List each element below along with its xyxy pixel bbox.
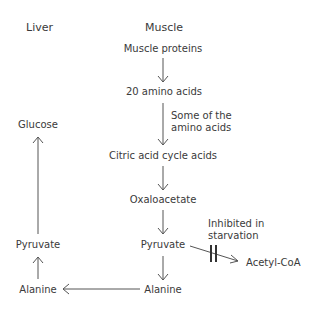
arrow-citric-to-oxaloacetate [158,166,168,190]
label-inhibited-line1: Inhibited in [208,218,264,230]
muscle-header: Muscle [145,21,183,34]
node-liver-pyruvate: Pyruvate [16,239,61,251]
label-some-amino-acids-line1: Some of the [171,110,232,122]
arrow-liver-pyruvate-to-glucose [33,137,43,234]
label-inhibited-line2: starvation [208,230,259,242]
node-citric-acid-cycle-acids: Citric acid cycle acids [109,150,217,162]
arrow-proteins-to-amino-acids [158,58,168,82]
arrow-pyruvate-to-alanine [158,256,168,280]
label-some-amino-acids-line2: amino acids [171,122,231,134]
node-acetyl-coa: Acetyl-CoA [246,257,300,269]
node-muscle-proteins: Muscle proteins [124,43,203,55]
node-muscle-pyruvate: Pyruvate [141,239,186,251]
arrow-muscle-alanine-to-liver-alanine [63,284,140,294]
arrow-amino-acids-to-citric-acids [158,103,168,145]
node-liver-glucose: Glucose [18,119,58,131]
node-liver-alanine: Alanine [19,284,56,296]
node-oxaloacetate: Oxaloacetate [130,194,197,206]
arrow-pyruvate-to-acetyl-coa [190,246,238,263]
liver-header: Liver [26,21,53,34]
node-20-amino-acids: 20 amino acids [126,86,202,98]
arrow-liver-alanine-to-pyruvate [33,257,43,279]
node-muscle-alanine: Alanine [144,284,181,296]
arrow-oxaloacetate-to-pyruvate [158,210,168,234]
